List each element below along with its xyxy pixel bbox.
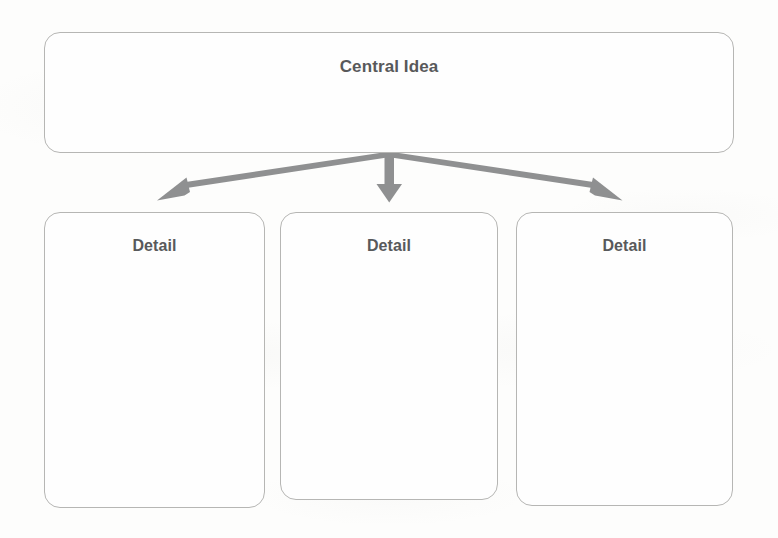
central-idea-label: Central Idea [45,57,733,77]
detail-box-1[interactable]: Detail [44,212,265,508]
detail-box-3[interactable]: Detail [516,212,733,506]
detail-label-3: Detail [517,237,732,255]
arrow-to-detail-3 [389,152,623,201]
graphic-organizer-canvas: Central Idea Detail Detail Detail [0,0,778,538]
central-idea-box[interactable]: Central Idea [44,32,734,153]
arrow-to-detail-1 [157,152,390,201]
arrow-to-detail-2 [377,152,403,203]
detail-label-2: Detail [281,237,497,255]
detail-label-1: Detail [45,237,264,255]
detail-box-2[interactable]: Detail [280,212,498,500]
